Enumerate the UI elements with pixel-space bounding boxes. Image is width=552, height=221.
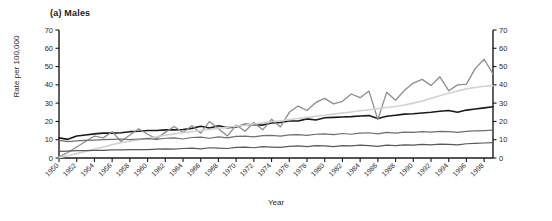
y-tick-label-right: 40: [499, 80, 507, 89]
x-tick-label: 1968: [203, 162, 219, 178]
x-tick-label: 1960: [132, 162, 148, 178]
y-tick-label-right: 60: [499, 44, 507, 53]
chart-canvas: 0010102020303040405050606070701950195219…: [0, 0, 552, 221]
series-5-low-gray: [59, 143, 493, 152]
x-tick-label: 1984: [345, 162, 361, 178]
x-tick-label: 1958: [115, 162, 131, 178]
chart-figure: (a) Males Rate per 100,000 Year 00101020…: [0, 0, 552, 221]
x-tick-label: 1982: [327, 162, 343, 178]
x-tick-label: 1970: [221, 162, 237, 178]
x-tick-label: 1988: [380, 162, 396, 178]
x-tick-label: 1974: [256, 162, 272, 178]
x-tick-label: 1954: [79, 162, 95, 178]
x-tick-label: 1996: [451, 162, 467, 178]
x-tick-label: 1990: [398, 162, 414, 178]
y-tick-label-right: 70: [499, 26, 507, 35]
x-tick-label: 1994: [433, 162, 449, 178]
y-tick-label-left: 40: [45, 80, 53, 89]
y-tick-label-left: 50: [45, 62, 53, 71]
x-tick-label: 1980: [309, 162, 325, 178]
x-tick-label: 1978: [292, 162, 308, 178]
x-tick-label: 1972: [239, 162, 255, 178]
x-tick-label: 1964: [168, 162, 184, 178]
y-tick-label-left: 30: [45, 99, 53, 108]
y-tick-label-left: 0: [49, 154, 53, 163]
x-tick-label: 1986: [363, 162, 379, 178]
x-tick-label: 1998: [469, 162, 485, 178]
x-tick-label: 1952: [61, 162, 77, 178]
y-tick-label-right: 0: [499, 154, 503, 163]
series-group: [59, 59, 493, 157]
y-tick-label-left: 10: [45, 135, 53, 144]
x-tick-label: 1956: [97, 162, 113, 178]
tick-labels-group: 0010102020303040405050606070701950195219…: [44, 26, 508, 178]
x-tick-label: 1950: [44, 162, 60, 178]
y-tick-label-left: 20: [45, 117, 53, 126]
y-tick-label-right: 10: [499, 135, 507, 144]
y-tick-label-right: 20: [499, 117, 507, 126]
y-tick-label-left: 70: [45, 26, 53, 35]
y-tick-label-right: 30: [499, 99, 507, 108]
x-tick-label: 1966: [185, 162, 201, 178]
y-tick-label-left: 60: [45, 44, 53, 53]
x-tick-label: 1976: [274, 162, 290, 178]
x-tick-label: 1962: [150, 162, 166, 178]
x-tick-label: 1992: [416, 162, 432, 178]
y-tick-label-right: 50: [499, 62, 507, 71]
